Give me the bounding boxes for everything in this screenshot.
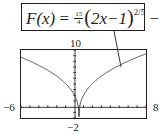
xmin-label: −6	[3, 102, 15, 113]
formula-exponent: 2/5	[134, 7, 146, 17]
axis-ticks	[21, 50, 146, 118]
function-formula: F(x) = 15 4 (2x−1)2/5 − 7 4	[26, 7, 163, 29]
formula-minus: −	[150, 9, 160, 28]
formula-inner: 2x−1	[91, 9, 127, 28]
xmax-label: 8	[153, 102, 159, 113]
formula-callout: F(x) = 15 4 (2x−1)2/5 − 7 4	[21, 3, 145, 31]
close-paren: )	[127, 6, 134, 28]
ymin-label: −2	[67, 122, 79, 133]
formula-equals: =	[60, 9, 70, 28]
coefficient-denominator: 4	[74, 19, 83, 26]
formula-lhs: F(x)	[26, 9, 55, 28]
ymax-label: 10	[70, 38, 81, 49]
coefficient-fraction: 15 4	[74, 11, 83, 26]
